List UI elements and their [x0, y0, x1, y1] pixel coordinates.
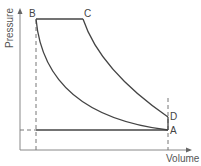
x-axis-arrow-icon	[186, 148, 192, 153]
process-ab	[36, 19, 168, 130]
pv-diagram: B C D A Pressure Volume	[0, 0, 201, 166]
label-d: D	[170, 111, 177, 122]
label-a: A	[170, 125, 177, 136]
y-axis-arrow-icon	[18, 8, 23, 14]
process-cd	[83, 19, 168, 117]
label-b: B	[29, 8, 36, 19]
label-c: C	[84, 8, 91, 19]
y-axis-label: Pressure	[4, 8, 15, 48]
x-axis-label: Volume	[166, 153, 200, 164]
